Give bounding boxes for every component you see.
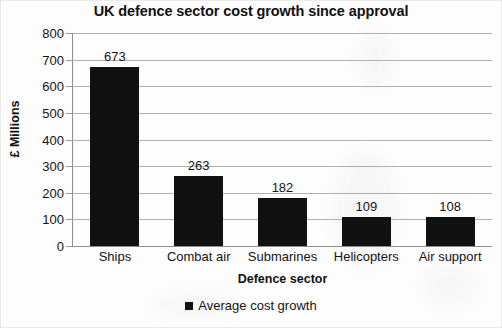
y-axis-tick-label: 400 — [6, 134, 64, 147]
y-axis-tick-mark — [66, 60, 73, 61]
chart-screenshot: UK defence sector cost growth since appr… — [0, 0, 502, 328]
x-axis-tick-label: Submarines — [241, 250, 325, 264]
y-axis-tick-mark — [66, 246, 73, 247]
y-axis-tick-label: 200 — [6, 187, 64, 200]
bar-value-label: 673 — [73, 50, 157, 63]
y-axis-tick-mark — [66, 193, 73, 194]
bar[interactable] — [174, 176, 223, 246]
y-axis-tick-mark — [66, 219, 73, 220]
y-axis-tick-label: 800 — [6, 27, 64, 40]
chart-title: UK defence sector cost growth since appr… — [0, 3, 502, 19]
legend-swatch-icon — [185, 302, 193, 310]
x-axis-tick-label: Air support — [408, 250, 492, 264]
y-axis-tick-mark — [66, 140, 73, 141]
y-axis-tick-label: 500 — [6, 107, 64, 120]
gridline — [73, 33, 492, 34]
bar[interactable] — [90, 67, 139, 246]
y-axis-tick-label: 100 — [6, 213, 64, 226]
bar-value-label: 263 — [157, 159, 241, 172]
x-axis-tick-label: Ships — [73, 250, 157, 264]
x-axis-title: Defence sector — [73, 272, 492, 286]
bar[interactable] — [426, 217, 475, 246]
y-axis-tick-label: 700 — [6, 54, 64, 67]
y-axis-tick-label: 300 — [6, 160, 64, 173]
legend-label: Average cost growth — [198, 299, 316, 313]
plot-area — [73, 33, 492, 246]
y-axis-tick-label: 600 — [6, 80, 64, 93]
bar[interactable] — [342, 217, 391, 246]
bar-value-label: 182 — [241, 181, 325, 194]
y-axis-tick-mark — [66, 86, 73, 87]
y-axis-tick-mark — [66, 113, 73, 114]
bar-value-label: 108 — [408, 200, 492, 213]
y-axis-tick-mark — [66, 33, 73, 34]
x-axis-tick-label: Helicopters — [324, 250, 408, 264]
bar-value-label: 109 — [324, 200, 408, 213]
y-axis-tick-label: 0 — [6, 240, 64, 253]
y-axis-tick-mark — [66, 166, 73, 167]
scan-edge-line — [0, 0, 502, 1]
bar[interactable] — [258, 198, 307, 246]
chart-legend: Average cost growth — [0, 299, 502, 313]
x-axis-tick-label: Combat air — [157, 250, 241, 264]
gridline — [73, 246, 492, 247]
y-axis-tick-labels: 8007006005004003002001000 — [0, 0, 64, 328]
